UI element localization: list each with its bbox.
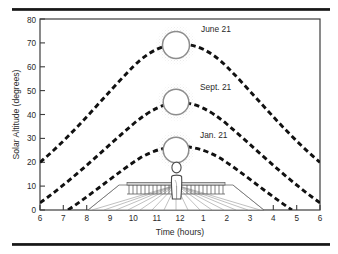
y-tick-label: 10 bbox=[27, 182, 37, 191]
y-axis-tick-labels: 0 10 20 30 40 50 60 70 80 bbox=[27, 16, 37, 216]
y-tick-label: 0 bbox=[31, 206, 36, 215]
x-tick-label: 6 bbox=[318, 214, 323, 223]
y-tick-label: 70 bbox=[27, 39, 37, 48]
x-tick-label: 9 bbox=[108, 214, 113, 223]
chart-container: 0 10 20 30 40 50 60 70 80 Solar Altitude… bbox=[0, 0, 338, 254]
series-label-sept-21: Sept. 21 bbox=[200, 82, 232, 92]
x-tick-label: 4 bbox=[271, 214, 276, 223]
x-axis-title: Time (hours) bbox=[156, 227, 205, 237]
x-tick-label: 5 bbox=[294, 214, 299, 223]
sun-icon-june bbox=[150, 19, 202, 71]
series-label-jan-21: Jan. 21 bbox=[200, 130, 228, 140]
x-tick-label: 12 bbox=[175, 214, 185, 223]
person-head bbox=[172, 162, 181, 173]
y-tick-label: 40 bbox=[27, 111, 37, 120]
x-tick-label: 8 bbox=[84, 214, 89, 223]
x-tick-label: 10 bbox=[129, 214, 139, 223]
solar-altitude-chart: 0 10 20 30 40 50 60 70 80 Solar Altitude… bbox=[0, 0, 338, 254]
x-tick-label: 6 bbox=[38, 214, 43, 223]
y-tick-label: 60 bbox=[27, 63, 37, 72]
x-tick-label: 1 bbox=[201, 214, 206, 223]
sun-icons-group bbox=[150, 19, 202, 175]
y-tick-label: 50 bbox=[27, 87, 37, 96]
series-label-june-21: June 21 bbox=[201, 24, 231, 34]
x-tick-label: 11 bbox=[152, 214, 161, 223]
y-tick-label: 20 bbox=[27, 158, 37, 167]
x-tick-label: 3 bbox=[248, 214, 253, 223]
y-tick-label: 30 bbox=[27, 134, 37, 143]
x-tick-label: 7 bbox=[61, 214, 66, 223]
y-tick-label: 80 bbox=[27, 16, 37, 25]
y-axis-title: Solar Altitude (degrees) bbox=[11, 69, 21, 159]
x-tick-label: 2 bbox=[224, 214, 229, 223]
figure: 0 10 20 30 40 50 60 70 80 Solar Altitude… bbox=[0, 0, 338, 254]
sun-icon-sept bbox=[151, 77, 201, 127]
person-icon bbox=[171, 162, 181, 199]
x-axis-tick-labels: 6 7 8 9 10 11 12 1 2 3 4 5 6 bbox=[38, 214, 323, 223]
